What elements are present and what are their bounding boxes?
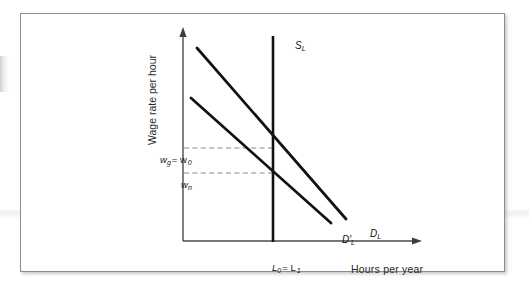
figure-card: Wage rate per hour Hours per year SL DL …: [20, 13, 505, 272]
hours-subscript-second: 1: [297, 267, 301, 274]
wage-net-base: w: [181, 179, 188, 190]
y-tick-label-wage-net: wn: [181, 180, 192, 190]
y-tick-label-wage-gross: wg= w0: [160, 155, 192, 165]
curve-label-demand-shifted-subscript: L: [351, 238, 355, 247]
y-axis-title: Wage rate per hour: [145, 44, 159, 156]
chart-svg: [21, 14, 504, 271]
wage-gross-base: w: [160, 154, 167, 165]
wage-gross-subscript: g: [167, 159, 171, 166]
curve-label-supply-base: S: [295, 40, 302, 51]
curve-demand-labour-shifted: [191, 98, 331, 223]
wage-net-subscript: n: [188, 184, 192, 191]
x-tick-label-hours-equilibrium: L0= L1: [272, 263, 301, 273]
hours-subscript-first: 0: [277, 267, 281, 274]
curve-label-demand-original-subscript: L: [377, 232, 381, 241]
x-axis-arrowhead: [412, 237, 422, 244]
curve-label-demand-shifted-base: D′: [342, 234, 351, 245]
curve-label-demand-original: DL: [370, 229, 381, 239]
curve-demand-labour-original: [197, 48, 346, 219]
chart-plot-area: [21, 14, 504, 271]
curve-label-supply-subscript: L: [302, 44, 306, 53]
x-axis-title: Hours per year: [351, 264, 423, 275]
curve-label-supply: SL: [295, 41, 306, 51]
hours-equals: = L: [281, 262, 296, 273]
wage-gross-equals: = w: [171, 154, 188, 165]
y-axis: [179, 27, 186, 241]
y-axis-title-text: Wage rate per hour: [147, 55, 158, 145]
x-axis: [183, 237, 422, 244]
scanned-page: Wage rate per hour Hours per year SL DL …: [0, 0, 529, 291]
curve-label-demand-shifted: D′L: [342, 235, 355, 245]
y-axis-arrowhead: [179, 27, 186, 37]
wage-gross-eq-subscript: 0: [188, 159, 192, 166]
scan-edge-artifact: [0, 56, 9, 92]
